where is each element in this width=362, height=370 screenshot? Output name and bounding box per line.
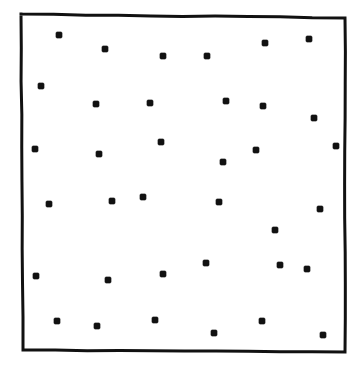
data-point	[94, 323, 100, 329]
data-point	[46, 201, 52, 207]
data-point	[277, 262, 283, 268]
data-point	[306, 36, 312, 42]
data-point	[216, 199, 222, 205]
data-point	[96, 151, 102, 157]
data-point	[262, 40, 268, 46]
data-point	[317, 206, 323, 212]
data-point	[320, 332, 326, 338]
data-point	[102, 46, 108, 52]
data-point	[223, 98, 229, 104]
data-point	[203, 260, 209, 266]
data-point	[33, 273, 39, 279]
data-point	[333, 143, 339, 149]
scatter-plot	[0, 0, 362, 370]
data-point	[38, 83, 44, 89]
data-point	[160, 271, 166, 277]
data-point	[140, 194, 146, 200]
data-point	[259, 318, 265, 324]
data-point	[160, 53, 166, 59]
data-point	[304, 266, 310, 272]
data-point	[147, 100, 153, 106]
data-point	[93, 101, 99, 107]
data-point	[56, 32, 62, 38]
figure-background	[0, 0, 362, 370]
data-point	[105, 277, 111, 283]
data-point	[152, 317, 158, 323]
data-point	[272, 227, 278, 233]
data-point	[32, 146, 38, 152]
data-point	[220, 159, 226, 165]
data-point	[311, 115, 317, 121]
data-point	[204, 53, 210, 59]
data-point	[253, 147, 259, 153]
data-point	[260, 103, 266, 109]
data-point	[54, 318, 60, 324]
data-point	[158, 139, 164, 145]
data-point	[211, 330, 217, 336]
figure-root	[0, 0, 362, 370]
data-point	[109, 198, 115, 204]
